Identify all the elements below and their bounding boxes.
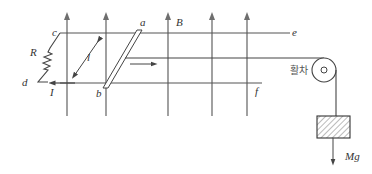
label-d: d [22,76,28,88]
label-R: R [29,46,37,58]
magnetic-field-arrows [67,16,247,116]
label-pulley: 활차 [290,64,308,76]
label-b: b [96,87,102,99]
label-a: a [140,16,146,28]
label-Mg: Mg [344,150,360,162]
resistor-icon [38,33,60,82]
label-c: c [52,26,57,38]
hanging-mass [317,116,350,138]
label-I: I [49,86,55,98]
sliding-rod [103,30,142,88]
pulley-axle-icon [321,67,327,73]
label-e: e [292,26,297,38]
label-f: f [255,85,260,97]
rail-generator-diagram: a b B c d e f R l I 활차 Mg [0,0,372,174]
label-B-field: B [176,16,183,28]
label-l: l [87,51,90,63]
